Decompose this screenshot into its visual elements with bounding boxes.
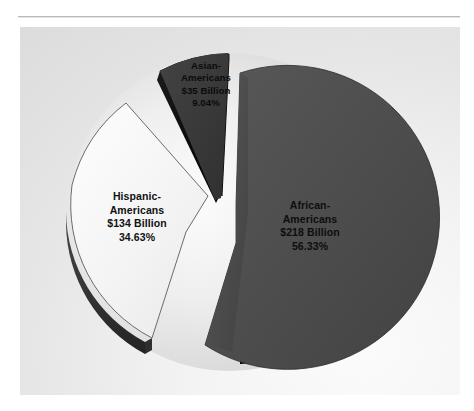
slice-label-hispanic-americans-value: $134 Billion [76,217,198,231]
slice-label-hispanic-americans: Hispanic- Americans $134 Billion 34.63% [76,190,198,245]
slice-label-asian-americans-name-line2: Americans [160,72,252,84]
slice-label-asian-americans-value: $35 Billion [160,85,252,97]
slice-label-african-americans-percent: 56.33% [248,240,372,254]
slice-label-hispanic-americans-name-line2: Americans [76,204,198,218]
slice-label-african-americans-name-line2: Americans [248,213,372,227]
slice-label-african-americans-value: $218 Billion [248,226,372,240]
slice-label-asian-americans: Asian- Americans $35 Billion 9.04% [160,60,252,110]
figure-page: African- Americans $218 Billion 56.33% H… [0,0,474,411]
slice-label-hispanic-americans-name-line1: Hispanic- [76,190,198,204]
slice-label-african-americans: African- Americans $218 Billion 56.33% [248,199,372,254]
slice-label-hispanic-americans-percent: 34.63% [76,231,198,245]
slice-label-asian-americans-percent: 9.04% [160,97,252,109]
slice-label-asian-americans-name-line1: Asian- [160,60,252,72]
slice-label-african-americans-name-line1: African- [248,199,372,213]
